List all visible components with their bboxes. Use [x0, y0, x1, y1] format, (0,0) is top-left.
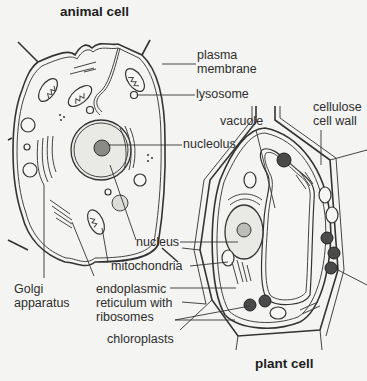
label-chloroplasts: chloroplasts [107, 332, 174, 346]
label-endoplasmic-reticulum: endoplasmic reticulum with ribosomes [96, 282, 172, 324]
label-plasma-membrane: plasma membrane [197, 48, 257, 76]
label-cellulose-cell-wall: cellulose cell wall [313, 100, 362, 128]
plant-cell-title: plant cell [255, 356, 314, 371]
cell-diagram [0, 0, 367, 381]
animal-cell [8, 40, 178, 266]
label-nucleolus: nucleolus [183, 137, 236, 151]
label-vacuole: vacuole [220, 114, 263, 128]
label-mitochondria: mitochondria [111, 259, 183, 273]
animal-lysosome [131, 92, 138, 99]
label-nucleus: nucleus [136, 235, 179, 249]
animal-cell-title: animal cell [60, 4, 129, 19]
animal-nucleolus [94, 140, 110, 156]
label-lysosome: lysosome [196, 87, 249, 101]
label-golgi-apparatus: Golgi apparatus [14, 282, 70, 310]
plant-nucleolus [237, 223, 251, 237]
